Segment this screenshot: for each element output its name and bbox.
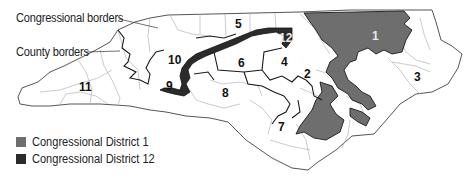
map-legend: Congressional District 1 Congressional D…	[16, 133, 165, 167]
legend-swatch-district-12	[16, 154, 26, 164]
congressional-borders-callout: Congressional borders	[16, 11, 123, 25]
district-label-4: 4	[281, 55, 288, 69]
district-label-7: 7	[278, 120, 285, 134]
district-label-5: 5	[235, 17, 242, 31]
district-label-1: 1	[372, 29, 379, 43]
legend-swatch-district-1	[16, 137, 26, 147]
district-label-3: 3	[414, 70, 421, 84]
district-label-11: 11	[79, 80, 92, 94]
legend-label-district-12: Congressional District 12	[32, 152, 155, 166]
district-label-9: 9	[166, 79, 173, 93]
district-label-10: 10	[168, 53, 182, 67]
county-borders-callout: County borders	[16, 45, 89, 59]
district-label-6: 6	[238, 56, 245, 70]
legend-item-district-12: Congressional District 12	[16, 150, 165, 167]
district-label-12: 12	[279, 31, 293, 45]
district-label-2: 2	[304, 67, 311, 81]
legend-label-district-1: Congressional District 1	[32, 135, 149, 149]
legend-item-district-1: Congressional District 1	[16, 133, 165, 150]
district-label-8: 8	[222, 86, 229, 100]
